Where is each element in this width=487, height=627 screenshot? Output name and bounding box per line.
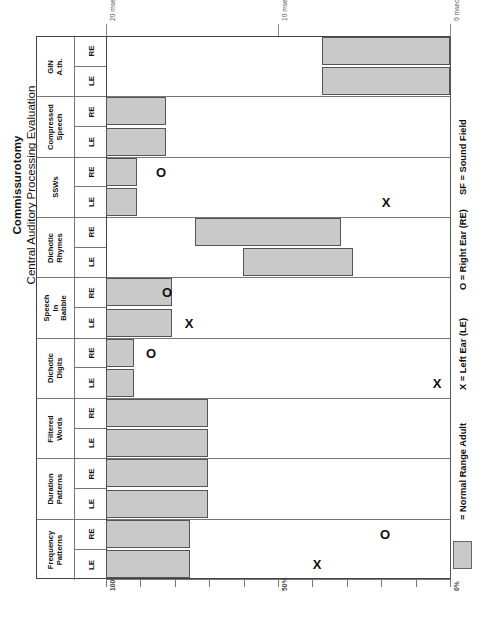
axis-bottom-tick (278, 579, 279, 587)
ear-label-text: LE (86, 378, 95, 388)
normal-range-bar-dichotic-rhymes-re (195, 218, 341, 246)
ear-label-group: RELE (75, 278, 106, 337)
ear-label-text: LE (86, 76, 95, 86)
ear-label-group: RELE (75, 37, 106, 96)
axis-bottom-tick (209, 579, 210, 587)
ear-label-group: RELE (75, 158, 106, 217)
plot-subrow-le (107, 187, 451, 217)
ear-label-re: RE (75, 37, 106, 67)
legend-swatch-normal-range (453, 541, 472, 569)
ear-label-re: RE (75, 218, 106, 248)
normal-range-bar-dichotic-digits-re (106, 339, 134, 367)
row-label-dichotic-digits: Dichotic DigitsRELE (37, 339, 107, 399)
normal-range-bar-frequency-patterns-le (106, 550, 190, 578)
row-label-name: Compressed Speech (37, 97, 75, 156)
axis-bottom-tick (140, 579, 141, 587)
plot-subrow-re (107, 339, 451, 369)
axis-bottom-tick (312, 579, 313, 587)
chart-page: Commissurotomy Central Auditory Processi… (0, 0, 487, 627)
ear-label-le: LE (75, 489, 106, 519)
ear-label-text: RE (86, 408, 95, 419)
row-label-text: Compressed Speech (47, 104, 64, 150)
score-marker-left-ear-dichotic-digits: X (433, 376, 442, 389)
row-label-name: Speech In Babble (37, 278, 75, 337)
ear-label-le: LE (75, 429, 106, 459)
axis-bottom-tick (347, 579, 348, 587)
row-label-filtered-words: Filtered WordsRELE (37, 399, 107, 459)
axis-bottom-tick (175, 579, 176, 587)
normal-range-bar-speech-in-babble-le (106, 309, 172, 337)
ear-label-re: RE (75, 399, 106, 429)
row-label-text: Duration Patterns (47, 473, 64, 504)
row-label-table: GIN A.th.RELECompressed SpeechRELESSWsRE… (36, 36, 106, 579)
row-label-name: GIN A.th. (37, 37, 75, 96)
row-label-duration-patterns: Duration PatternsRELE (37, 459, 107, 519)
score-marker-right-ear-dichotic-digits: O (146, 346, 156, 359)
normal-range-bar-dichotic-rhymes-le (243, 248, 353, 276)
ear-label-group: RELE (75, 218, 106, 277)
score-marker-left-ear-speech-in-babble: X (185, 316, 194, 329)
plot-subrow-le (107, 368, 451, 398)
ear-label-le: LE (75, 187, 106, 217)
ear-label-text: LE (86, 499, 95, 509)
legend-label-left-ear: X = Left Ear (LE) (458, 318, 468, 390)
row-label-text: Dichotic Digits (47, 353, 64, 383)
ear-label-group: RELE (75, 520, 106, 580)
ear-label-group: RELE (75, 97, 106, 156)
ear-label-text: RE (86, 227, 95, 238)
plot-row-dichotic-digits (107, 339, 451, 399)
legend-label-normal-range: = Normal Range Adult (458, 423, 468, 520)
normal-range-bar-dichotic-digits-le (106, 369, 134, 397)
normal-range-bar-compressed-speech-re (106, 97, 166, 125)
normal-range-bar-filtered-words-re (106, 399, 208, 427)
ear-label-re: RE (75, 158, 106, 188)
ear-label-text: RE (86, 166, 95, 177)
normal-range-bar-ssws-re (106, 158, 137, 186)
row-label-text: Speech In Babble (42, 294, 68, 321)
score-marker-left-ear-ssws: X (382, 195, 391, 208)
axis-bottom-percent: 100%50%0% (106, 579, 451, 580)
axis-top-tick (278, 24, 279, 36)
ear-label-text: RE (86, 468, 95, 479)
row-label-text: Frequency Patterns (47, 531, 64, 569)
ear-label-text: LE (86, 257, 95, 267)
ear-label-group: RELE (75, 339, 106, 398)
row-label-name: SSWs (37, 158, 75, 217)
ear-label-re: RE (75, 459, 106, 489)
score-marker-right-ear-frequency-patterns: O (380, 527, 390, 540)
score-marker-left-ear-frequency-patterns: X (313, 557, 322, 570)
row-label-ssws: SSWsRELE (37, 158, 107, 218)
ear-label-group: RELE (75, 459, 106, 518)
legend-label-right-ear: O = Right Ear (RE) (458, 209, 468, 290)
axis-bottom-tick-label: 50% (281, 577, 288, 591)
ear-label-le: LE (75, 368, 106, 398)
ear-label-text: RE (86, 287, 95, 298)
score-marker-right-ear-ssws: O (156, 165, 166, 178)
ear-label-text: LE (86, 318, 95, 328)
row-label-frequency-patterns: Frequency PatternsRELE (37, 520, 107, 580)
normal-range-bar-duration-patterns-re (106, 459, 208, 487)
normal-range-bar-gin-a-th-re (322, 37, 450, 65)
ear-label-text: RE (86, 106, 95, 117)
ear-label-re: RE (75, 339, 106, 369)
normal-range-bar-frequency-patterns-re (106, 520, 190, 548)
legend-label-sound-field: SF = Sound Field (458, 119, 468, 195)
normal-range-bar-compressed-speech-le (106, 128, 166, 156)
score-marker-right-ear-speech-in-babble: O (162, 286, 172, 299)
row-label-text: SSWs (51, 177, 60, 199)
normal-range-bar-duration-patterns-le (106, 490, 208, 518)
row-label-dichotic-rhymes: Dichotic RhymesRELE (37, 218, 107, 278)
ear-label-text: RE (86, 347, 95, 358)
axis-bottom-tick (381, 579, 382, 587)
row-label-text: Filtered Words (47, 415, 64, 442)
row-label-text: GIN A.th. (47, 58, 64, 75)
ear-label-le: LE (75, 308, 106, 338)
ear-label-text: RE (86, 529, 95, 540)
axis-bottom-tick (244, 579, 245, 587)
ear-label-text: LE (86, 197, 95, 207)
row-label-speech-in-babble: Speech In BabbleRELE (37, 278, 107, 338)
axis-bottom-tick-label: 0% (453, 581, 460, 591)
ear-label-re: RE (75, 97, 106, 127)
ear-label-re: RE (75, 278, 106, 308)
title-main: Commissurotomy (11, 65, 25, 305)
